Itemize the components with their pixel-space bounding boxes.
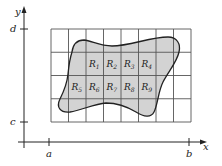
x-tick-label-a: a	[46, 148, 52, 159]
y-tick-label-d: d	[10, 23, 16, 34]
y-axis-arrow-icon	[22, 6, 27, 13]
x-axis-label: x	[203, 141, 209, 152]
y-tick-label-c: c	[10, 116, 16, 127]
region-partition-diagram: y x d c a b R1 R2 R3 R4 R5 R6 R7 R8 R9	[0, 0, 222, 166]
y-axis-label: y	[14, 6, 21, 17]
x-tick-label-b: b	[186, 148, 192, 159]
